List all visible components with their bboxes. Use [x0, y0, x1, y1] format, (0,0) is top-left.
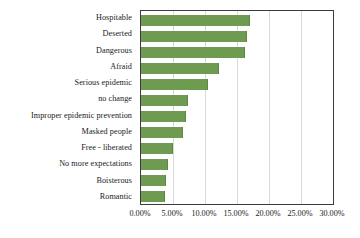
bar-4: [141, 63, 219, 74]
gridline: [333, 11, 334, 204]
x-axis-tick-labels: 0.00%5.00%10.00%15.00%20.00%25.00%30.00%: [0, 210, 360, 224]
bar-row: [141, 172, 333, 188]
x-axis-tick-label: 15.00%: [223, 210, 248, 218]
y-axis-label: Boisterous: [0, 173, 136, 189]
y-axis-category-labels: Hospitable Deserted Dangerous Afraid Ser…: [0, 10, 136, 205]
y-axis-label: Deserted: [0, 26, 136, 42]
bar-row: [141, 60, 333, 76]
x-axis-tick-label: 30.00%: [319, 210, 344, 218]
bar-row: [141, 28, 333, 44]
y-axis-label: Free - liberated: [0, 140, 136, 156]
bar-row: [141, 140, 333, 156]
plot-area: [140, 10, 334, 205]
y-axis-label: No more expectations: [0, 156, 136, 172]
bar-2: [141, 31, 247, 42]
x-axis-tick-label: 25.00%: [287, 210, 312, 218]
bar-12: [141, 191, 165, 202]
bar-6: [141, 95, 188, 106]
bar-row: [141, 124, 333, 140]
bar-5: [141, 79, 208, 90]
bar-1: [141, 15, 250, 26]
y-axis-label: Romantic: [0, 189, 136, 205]
bar-row: [141, 12, 333, 28]
x-axis-tick-label: 20.00%: [255, 210, 280, 218]
bar-row: [141, 44, 333, 60]
bar-9: [141, 143, 173, 154]
y-axis-label: Hospitable: [0, 10, 136, 26]
bar-chart: Hospitable Deserted Dangerous Afraid Ser…: [0, 0, 360, 238]
bar-3: [141, 47, 245, 58]
x-axis-tick-label: 0.00%: [129, 210, 150, 218]
bar-10: [141, 159, 168, 170]
y-axis-label: Serious epidemic: [0, 75, 136, 91]
y-axis-label: Masked people: [0, 124, 136, 140]
bar-row: [141, 188, 333, 204]
y-axis-label: Improper epidemic prevention: [0, 108, 136, 124]
bar-row: [141, 92, 333, 108]
bar-row: [141, 156, 333, 172]
bar-7: [141, 111, 186, 122]
bar-11: [141, 175, 166, 186]
bar-8: [141, 127, 183, 138]
bar-series: [141, 11, 333, 204]
y-axis-label: no change: [0, 91, 136, 107]
y-axis-label: Afraid: [0, 59, 136, 75]
x-axis-tick-label: 10.00%: [191, 210, 216, 218]
y-axis-label: Dangerous: [0, 43, 136, 59]
bar-row: [141, 108, 333, 124]
bar-row: [141, 76, 333, 92]
x-axis-tick-label: 5.00%: [161, 210, 182, 218]
